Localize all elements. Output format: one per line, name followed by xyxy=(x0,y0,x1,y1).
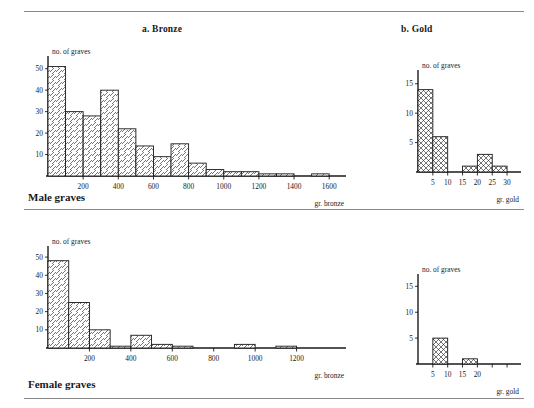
x-tick-label: 10 xyxy=(444,370,452,379)
x-axis-title: gr. bronze xyxy=(314,371,344,380)
x-tick-label: 1600 xyxy=(322,182,337,191)
y-tick-label: 10 xyxy=(36,150,44,159)
x-tick-label: 1000 xyxy=(248,354,263,363)
y-tick-label: 10 xyxy=(36,325,44,334)
bar xyxy=(110,346,131,348)
top-rule xyxy=(24,11,524,12)
x-tick-label: 600 xyxy=(148,182,159,191)
y-tick-label: 5 xyxy=(409,138,413,147)
bar xyxy=(66,112,84,176)
y-tick-label: 50 xyxy=(36,64,44,73)
bar xyxy=(433,338,448,364)
x-tick-label: 15 xyxy=(459,178,467,187)
bar xyxy=(276,174,294,176)
bar xyxy=(189,163,207,176)
x-tick-label: 600 xyxy=(167,354,178,363)
y-tick-label: 50 xyxy=(36,253,44,262)
x-tick-label: 30 xyxy=(503,178,511,187)
x-tick-label: 800 xyxy=(208,354,219,363)
y-tick-label: 30 xyxy=(36,107,44,116)
bar xyxy=(477,154,492,172)
y-tick-label: 10 xyxy=(406,308,414,317)
x-tick-label: 400 xyxy=(113,182,124,191)
bar xyxy=(492,166,507,172)
y-tick-label: 30 xyxy=(36,289,44,298)
x-tick-label: 25 xyxy=(489,178,497,187)
bar xyxy=(172,346,193,348)
bar xyxy=(152,344,173,348)
x-axis-title: gr. gold xyxy=(496,387,519,396)
plot-male-bronze: 10203040502004006008001000120014001600no… xyxy=(26,44,366,218)
plot-female-gold: 510155101520no. of gravesgr. gold xyxy=(396,262,534,406)
bar xyxy=(276,346,297,348)
x-axis-title: gr. gold xyxy=(496,195,519,204)
y-tick-label: 40 xyxy=(36,271,44,280)
histogram-male-bronze: 10203040502004006008001000120014001600no… xyxy=(26,44,366,218)
x-tick-label: 10 xyxy=(444,178,452,187)
x-tick-label: 20 xyxy=(474,178,482,187)
bar xyxy=(83,116,101,176)
bar xyxy=(433,137,448,172)
x-tick-label: 20 xyxy=(474,370,482,379)
bar xyxy=(118,129,136,176)
bar xyxy=(224,172,242,176)
y-tick-label: 20 xyxy=(36,307,44,316)
x-tick-label: 1200 xyxy=(252,182,267,191)
bar xyxy=(234,344,255,348)
bar xyxy=(241,172,259,176)
x-tick-label: 800 xyxy=(183,182,194,191)
y-axis-title: no. of graves xyxy=(52,237,91,246)
histogram-male-gold: 5101551015202530no. of gravesgr. gold xyxy=(396,58,534,214)
bar xyxy=(131,335,152,348)
bar xyxy=(312,174,330,176)
bar xyxy=(171,144,189,176)
bar xyxy=(153,157,171,176)
plot-female-bronze: 102030405020040060080010001200no. of gra… xyxy=(26,234,366,390)
y-tick-label: 5 xyxy=(409,334,413,343)
y-axis-title: no. of graves xyxy=(422,61,461,70)
y-tick-label: 10 xyxy=(406,109,414,118)
x-tick-label: 5 xyxy=(431,370,435,379)
bar xyxy=(101,90,119,176)
x-tick-label: 5 xyxy=(431,178,435,187)
y-tick-label: 40 xyxy=(36,86,44,95)
bar xyxy=(48,261,69,348)
chart-title-male-gold: b. Gold xyxy=(401,24,433,34)
plot-male-gold: 5101551015202530no. of gravesgr. gold xyxy=(396,58,534,214)
x-axis-title: gr. bronze xyxy=(314,199,344,208)
bar xyxy=(259,174,277,176)
x-tick-label: 200 xyxy=(78,182,89,191)
histogram-female-gold: 510155101520no. of gravesgr. gold xyxy=(396,262,534,406)
histogram-female-bronze: 102030405020040060080010001200no. of gra… xyxy=(26,234,366,390)
bar xyxy=(463,359,478,364)
bar xyxy=(463,166,478,172)
bar xyxy=(206,170,224,176)
x-tick-label: 1200 xyxy=(289,354,304,363)
x-tick-label: 1000 xyxy=(216,182,231,191)
bar xyxy=(418,90,433,172)
x-tick-label: 1400 xyxy=(287,182,302,191)
bar xyxy=(89,330,110,348)
y-tick-label: 20 xyxy=(36,129,44,138)
x-tick-label: 15 xyxy=(459,370,467,379)
bar xyxy=(69,303,90,348)
x-tick-label: 400 xyxy=(125,354,136,363)
y-axis-title: no. of graves xyxy=(52,47,91,56)
x-tick-label: 200 xyxy=(84,354,95,363)
y-tick-label: 15 xyxy=(406,79,414,88)
chart-title-male-bronze: a. Bronze xyxy=(142,24,182,34)
bar xyxy=(48,67,66,176)
y-tick-label: 15 xyxy=(406,282,414,291)
bar xyxy=(136,146,154,176)
y-axis-title: no. of graves xyxy=(422,265,461,274)
